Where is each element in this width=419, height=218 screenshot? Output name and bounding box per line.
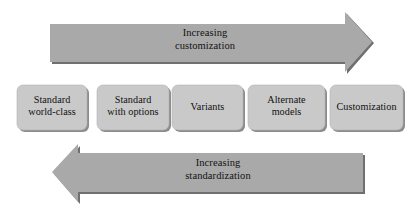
- top-arrow-shape: [50, 12, 374, 74]
- bottom-arrow-shape: [52, 144, 365, 204]
- diagram-shapes: [0, 0, 419, 218]
- diagram-canvas: Increasing customization Standard world-…: [0, 0, 419, 218]
- box-alternate-models-shape: [248, 85, 325, 130]
- box-standard-with-options-shape: [97, 85, 169, 130]
- box-bodies: [17, 85, 403, 130]
- box-customization-shape: [330, 85, 403, 130]
- box-standard-world-class-shape: [17, 85, 87, 130]
- box-variants-shape: [172, 85, 243, 130]
